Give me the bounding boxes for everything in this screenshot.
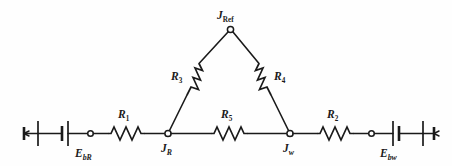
label-junction-jref: JRef	[216, 9, 234, 24]
battery-right	[375, 121, 424, 146]
terminal-left	[24, 127, 38, 140]
resistor-r1	[108, 127, 145, 140]
label-battery-left-base: E	[74, 147, 83, 159]
battery-left	[38, 121, 88, 146]
label-resistor-r3-sub: 3	[179, 77, 183, 85]
label-battery-right-sub: bw	[388, 153, 398, 162]
label-junction-jr-sub: R	[166, 148, 172, 157]
terminal-right	[423, 127, 439, 140]
label-resistor-r3-base: R	[170, 70, 179, 82]
label-resistor-r4: R4	[273, 70, 286, 85]
circuit-diagram-figure: JRef JR Jw R1 R5 R2 R3 R4 EbR Ebw	[0, 0, 452, 166]
terminal-node-left	[88, 131, 94, 137]
label-battery-right-base: E	[379, 147, 388, 159]
label-resistor-r5-base: R	[220, 108, 229, 120]
resistor-r5	[211, 127, 248, 140]
junction-jref-node	[227, 26, 233, 32]
label-resistor-r4-sub: 4	[282, 77, 286, 85]
label-resistor-r5: R5	[220, 108, 233, 123]
label-resistor-r1-sub: 1	[126, 115, 130, 123]
label-junction-jw-sub: w	[289, 148, 295, 157]
label-resistor-r2-base: R	[326, 108, 335, 120]
label-junction-jr: JR	[160, 142, 172, 157]
terminal-node-right	[369, 131, 375, 137]
label-resistor-r2: R2	[326, 108, 339, 123]
resistor-r2	[317, 127, 354, 140]
label-resistor-r2-sub: 2	[335, 115, 339, 123]
label-resistor-r5-sub: 5	[229, 115, 233, 123]
junction-jw-node	[287, 130, 293, 136]
label-resistor-r4-base: R	[273, 70, 282, 82]
label-junction-jw: Jw	[282, 142, 295, 157]
circuit-svg-canvas: JRef JR Jw R1 R5 R2 R3 R4 EbR Ebw	[0, 0, 452, 166]
label-resistor-r1-base: R	[117, 108, 126, 120]
junction-jr-node	[165, 130, 171, 136]
label-junction-jref-sub: Ref	[223, 16, 234, 24]
label-resistor-r1: R1	[117, 108, 130, 123]
label-battery-left-sub: bR	[83, 153, 92, 162]
label-battery-right: Ebw	[379, 147, 398, 162]
label-resistor-r3: R3	[170, 70, 183, 85]
label-battery-left: EbR	[74, 147, 92, 162]
